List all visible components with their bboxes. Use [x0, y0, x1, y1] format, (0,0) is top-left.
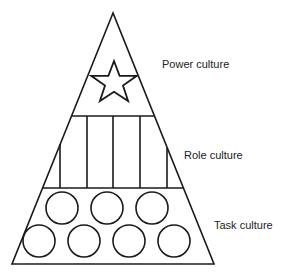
role-pillars	[60, 116, 167, 188]
role-culture-label: Role culture	[184, 149, 243, 161]
star-icon	[91, 61, 137, 101]
task-culture-label: Task culture	[214, 219, 273, 231]
culture-pyramid	[0, 0, 284, 277]
task-circles	[23, 192, 190, 257]
power-culture-label: Power culture	[162, 58, 229, 70]
